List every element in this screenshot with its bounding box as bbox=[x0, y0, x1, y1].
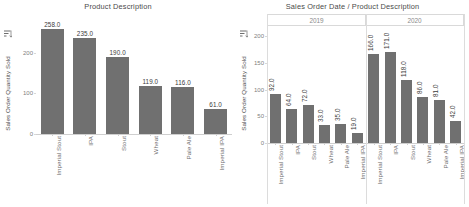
x-axis-tick-mark bbox=[324, 143, 325, 145]
pane-separator bbox=[464, 14, 465, 204]
bar-item[interactable]: 86.0 bbox=[417, 28, 428, 143]
x-axis-tick-mark bbox=[183, 134, 184, 136]
bar[interactable] bbox=[270, 94, 281, 143]
pane-separator bbox=[366, 14, 367, 204]
bar-item[interactable]: 258.0 bbox=[41, 22, 64, 134]
bar[interactable] bbox=[352, 133, 363, 143]
x-axis-tick-mark bbox=[292, 143, 293, 145]
bar[interactable] bbox=[319, 125, 330, 143]
bar-value-label: 118.0 bbox=[400, 61, 407, 77]
x-axis-tick-label: Stout bbox=[310, 145, 317, 160]
bar-item[interactable]: 166.0 bbox=[368, 28, 379, 143]
chart-panel-sales-order-date: Sales Order Date / Product Description S… bbox=[236, 0, 469, 207]
bar-value-label: 116.0 bbox=[175, 79, 191, 86]
y-axis-tick-label: 100 bbox=[23, 90, 33, 96]
bar-group-left: 258.0235.0190.0119.0116.061.0 bbox=[36, 22, 232, 134]
bar[interactable] bbox=[303, 105, 314, 144]
bar[interactable] bbox=[204, 109, 227, 134]
bar-value-label: 86.0 bbox=[416, 81, 423, 94]
bar[interactable] bbox=[385, 52, 396, 143]
dashboard-visualization: Product Description Sales Order Quantity… bbox=[0, 0, 469, 207]
bar-item[interactable]: 119.0 bbox=[139, 22, 162, 134]
x-axis-tick-mark bbox=[456, 143, 457, 145]
bar-item[interactable]: 81.0 bbox=[434, 28, 445, 143]
bar[interactable] bbox=[335, 124, 346, 143]
bar-value-label: 258.0 bbox=[44, 21, 60, 28]
bar-value-label: 19.0 bbox=[350, 117, 357, 130]
y-axis-left: Sales Order Quantity Sold 0100200 bbox=[0, 0, 36, 207]
x-axis-tick-label: Imperial Stout bbox=[376, 145, 383, 185]
bar-item[interactable]: 42.0 bbox=[450, 28, 461, 143]
bar-group-2020: 166.0171.0118.086.081.042.0 bbox=[366, 28, 465, 143]
y-axis-tick-label: 150 bbox=[254, 60, 264, 66]
x-axis-tick-mark bbox=[52, 134, 53, 136]
bar-group-2019: 92.064.072.033.035.019.0 bbox=[267, 28, 366, 143]
x-axis-tick-label: Stout bbox=[409, 145, 416, 160]
y-axis-tick-label: 100 bbox=[254, 87, 264, 93]
bar-item[interactable]: 92.0 bbox=[270, 28, 281, 143]
x-axis-tick-label: Wheat bbox=[152, 136, 159, 154]
x-axis-tick-label: Imperial Stout bbox=[55, 136, 62, 176]
bar-item[interactable]: 171.0 bbox=[385, 28, 396, 143]
bar-value-label: 33.0 bbox=[317, 110, 324, 123]
y-axis-right: Sales Order Quantity Sold 050100150200 bbox=[236, 0, 267, 207]
bar-item[interactable]: 116.0 bbox=[171, 22, 194, 134]
x-axis-tick-label: Stout bbox=[120, 136, 127, 151]
bar-value-label: 61.0 bbox=[209, 101, 222, 108]
x-axis-tick-mark bbox=[341, 143, 342, 145]
x-axis-tick-mark bbox=[308, 143, 309, 145]
bar[interactable] bbox=[417, 97, 428, 143]
x-axis-tick-label: IPA bbox=[294, 145, 301, 155]
x-axis-tick-mark bbox=[216, 134, 217, 136]
bar-item[interactable]: 118.0 bbox=[401, 28, 412, 143]
y-axis-tick-label: 200 bbox=[254, 33, 264, 39]
bar-value-label: 119.0 bbox=[142, 78, 158, 85]
bar[interactable] bbox=[401, 80, 412, 143]
y-axis-title-left: Sales Order Quantity Sold bbox=[2, 28, 13, 158]
y-axis-tick-label: 50 bbox=[257, 113, 264, 119]
y-axis-tick-label: 0 bbox=[30, 131, 33, 137]
x-axis-tick-mark bbox=[423, 143, 424, 145]
bar[interactable] bbox=[450, 121, 461, 143]
x-axis-tick-mark bbox=[407, 143, 408, 145]
y-axis-title-right: Sales Order Quantity Sold bbox=[238, 28, 249, 158]
bar-value-label: 92.0 bbox=[268, 78, 275, 91]
bar-item[interactable]: 235.0 bbox=[73, 22, 96, 134]
bar-item[interactable]: 35.0 bbox=[335, 28, 346, 143]
chart-panel-product-description: Product Description Sales Order Quantity… bbox=[0, 0, 236, 207]
x-axis-tick-label: Pale Ale bbox=[343, 145, 350, 169]
bar[interactable] bbox=[171, 87, 194, 134]
pane-separator bbox=[267, 14, 268, 204]
bar-item[interactable]: 61.0 bbox=[204, 22, 227, 134]
x-axis-tick-mark bbox=[118, 134, 119, 136]
bar[interactable] bbox=[41, 29, 64, 134]
bar-value-label: 171.0 bbox=[383, 32, 390, 48]
bar-value-label: 42.0 bbox=[449, 105, 456, 118]
bar-item[interactable]: 72.0 bbox=[303, 28, 314, 143]
bar[interactable] bbox=[139, 86, 162, 134]
bar-item[interactable]: 33.0 bbox=[319, 28, 330, 143]
plot-area-left: 258.0235.0190.0119.0116.061.0 Imperial S… bbox=[36, 0, 232, 207]
x-axis-line-left bbox=[36, 134, 232, 135]
bar-value-label: 235.0 bbox=[77, 30, 93, 37]
bar[interactable] bbox=[368, 54, 379, 143]
x-axis-tick-mark bbox=[85, 134, 86, 136]
bar-value-label: 81.0 bbox=[432, 84, 439, 97]
bar-value-label: 64.0 bbox=[285, 93, 292, 106]
bar-item[interactable]: 64.0 bbox=[286, 28, 297, 143]
x-axis-tick-label: Wheat bbox=[425, 145, 432, 163]
x-axis-tick-mark bbox=[390, 143, 391, 145]
bar-item[interactable]: 190.0 bbox=[106, 22, 129, 134]
bar-item[interactable]: 19.0 bbox=[352, 28, 363, 143]
bar-value-label: 166.0 bbox=[367, 35, 374, 51]
x-axis-tick-label: Wheat bbox=[327, 145, 334, 163]
x-axis-tick-label: Pale Ale bbox=[442, 145, 449, 169]
x-axis-tick-label: IPA bbox=[392, 145, 399, 155]
bar[interactable] bbox=[106, 57, 129, 134]
bar-value-label: 72.0 bbox=[301, 89, 308, 102]
x-axis-tick-label: IPA bbox=[87, 136, 94, 146]
bar[interactable] bbox=[73, 38, 96, 134]
bar[interactable] bbox=[434, 100, 445, 143]
bar[interactable] bbox=[286, 109, 297, 143]
bar-value-label: 190.0 bbox=[110, 49, 126, 56]
